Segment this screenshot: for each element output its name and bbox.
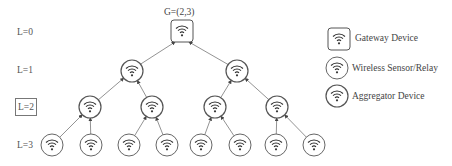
aggregator-node-b4 bbox=[266, 96, 288, 118]
level-label-3: L=3 bbox=[17, 139, 33, 151]
level-label-1: L=1 bbox=[17, 64, 33, 76]
legend-item-sensor: Wireless Sensor/Relay bbox=[352, 63, 438, 73]
legend-icons bbox=[326, 28, 350, 107]
edge-s4-to-b2 bbox=[156, 117, 163, 135]
sensor-node-s2 bbox=[80, 134, 102, 156]
edge-s8-to-b4 bbox=[285, 115, 307, 137]
edge-a1-to-g bbox=[141, 42, 175, 64]
gateway-label: G=(2,3) bbox=[164, 7, 194, 17]
edge-b1-to-a1 bbox=[98, 78, 123, 100]
gateway-node-g bbox=[171, 20, 193, 42]
level-label-0: L=0 bbox=[17, 26, 33, 38]
wifi-circle-bold-icon bbox=[326, 85, 348, 107]
legend-item-aggregator: Aggregator Device bbox=[352, 91, 425, 101]
edge-s1-to-b1 bbox=[60, 115, 82, 137]
edge-b2-to-a1 bbox=[137, 81, 146, 98]
edges bbox=[60, 42, 307, 137]
legend-item-gateway: Gateway Device bbox=[355, 33, 418, 43]
sensor-node-s4 bbox=[156, 134, 178, 156]
edge-b3-to-a2 bbox=[221, 80, 232, 97]
tree-diagram bbox=[0, 0, 452, 166]
aggregator-node-b1 bbox=[79, 96, 101, 118]
wifi-circle-icon bbox=[326, 57, 348, 79]
sensor-node-s1 bbox=[41, 134, 63, 156]
legend-label-aggregator: Aggregator Device bbox=[352, 91, 425, 101]
wifi-square-icon bbox=[328, 28, 350, 50]
level-label-2: L=2 bbox=[15, 98, 37, 116]
aggregator-node-a1 bbox=[121, 60, 143, 82]
edge-s6-to-b3 bbox=[221, 116, 234, 136]
sensor-node-s6 bbox=[229, 134, 251, 156]
aggregator-node-a2 bbox=[226, 60, 248, 82]
sensor-node-s7 bbox=[265, 134, 287, 156]
edge-b4-to-a2 bbox=[245, 78, 269, 99]
sensor-node-s5 bbox=[190, 134, 212, 156]
edge-s3-to-b2 bbox=[135, 116, 147, 135]
aggregator-node-b3 bbox=[204, 96, 226, 118]
edge-s5-to-b3 bbox=[205, 117, 211, 134]
legend-label-sensor: Wireless Sensor/Relay bbox=[352, 63, 438, 73]
aggregator-node-b2 bbox=[141, 96, 163, 118]
sensor-node-s8 bbox=[303, 134, 325, 156]
sensor-node-s3 bbox=[118, 134, 140, 156]
edge-a2-to-g bbox=[189, 42, 228, 65]
legend-label-gateway: Gateway Device bbox=[355, 33, 418, 43]
nodes bbox=[41, 20, 325, 156]
